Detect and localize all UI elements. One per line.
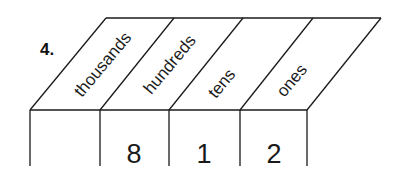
column-header-thousands: thousands (70, 28, 135, 100)
digit-ones: 2 (266, 139, 281, 169)
place-value-chart: thousands hundreds tens ones 8 1 2 (0, 0, 398, 178)
column-header-ones: ones (273, 60, 311, 100)
column-header-tens: tens (204, 65, 239, 102)
digit-hundreds: 8 (126, 139, 141, 169)
digit-tens: 1 (196, 139, 211, 169)
column-header-hundreds: hundreds (140, 31, 200, 98)
